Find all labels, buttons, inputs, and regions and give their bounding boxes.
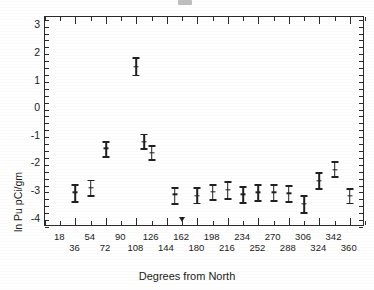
y-axis-tick bbox=[359, 82, 363, 83]
x-tick-label: 360 bbox=[341, 243, 357, 253]
x-axis-tick bbox=[213, 221, 214, 225]
x-tick-label: 234 bbox=[234, 232, 250, 242]
y-axis-tick bbox=[359, 47, 363, 48]
x-tick-label: 144 bbox=[158, 243, 174, 253]
y-tick-label: -2 bbox=[18, 157, 40, 168]
y-axis-tick bbox=[45, 89, 49, 90]
x-axis-tick bbox=[60, 221, 61, 225]
y-axis-tick bbox=[45, 116, 49, 117]
y-axis-tick bbox=[359, 40, 363, 41]
error-bar bbox=[288, 186, 290, 202]
y-axis-tick bbox=[359, 192, 363, 193]
y-axis-tick bbox=[45, 206, 49, 207]
error-bar-cap-lower bbox=[148, 159, 155, 161]
y-axis-tick bbox=[359, 172, 363, 173]
error-bar bbox=[174, 188, 176, 205]
data-point-marker bbox=[210, 191, 215, 192]
error-bar-cap-lower bbox=[209, 199, 216, 201]
error-bar-cap-upper bbox=[301, 195, 308, 197]
plot-area bbox=[45, 17, 363, 225]
x-axis-tick bbox=[75, 17, 76, 24]
censored-point-marker bbox=[179, 217, 185, 222]
y-axis-tick bbox=[45, 213, 49, 214]
x-axis-tick bbox=[75, 218, 76, 225]
error-bar-cap-lower bbox=[255, 200, 262, 202]
y-axis-tick bbox=[359, 96, 363, 97]
y-axis-tick bbox=[359, 116, 363, 117]
x-axis-tick bbox=[213, 17, 214, 21]
y-axis-tick bbox=[359, 75, 363, 76]
y-axis-tick bbox=[359, 20, 363, 21]
y-axis-tick bbox=[45, 61, 49, 62]
x-axis-tick bbox=[243, 221, 244, 225]
y-axis-tick bbox=[45, 158, 49, 159]
x-tick-label: 18 bbox=[54, 232, 65, 242]
error-bar bbox=[227, 182, 229, 199]
error-bar-cap-upper bbox=[270, 184, 277, 186]
x-tick-labels: 1854901261621982342703063423672108144180… bbox=[0, 232, 374, 262]
data-point-marker bbox=[103, 148, 108, 149]
y-tick-label: -3 bbox=[18, 185, 40, 196]
error-bar bbox=[212, 185, 214, 200]
x-tick-label: 90 bbox=[115, 232, 126, 242]
x-tick-label: 216 bbox=[219, 243, 235, 253]
y-axis-tick bbox=[359, 61, 363, 62]
data-point-marker bbox=[88, 187, 93, 188]
error-bar-cap-lower bbox=[301, 212, 308, 214]
x-tick-label: 306 bbox=[295, 232, 311, 242]
data-point-marker bbox=[286, 193, 291, 194]
y-axis-tick bbox=[359, 227, 363, 228]
x-axis-tick bbox=[106, 218, 107, 225]
y-axis-tick bbox=[45, 172, 49, 173]
x-axis-tick bbox=[258, 17, 259, 24]
y-axis-tick bbox=[359, 220, 363, 221]
y-axis-tick bbox=[359, 199, 363, 200]
error-bar-cap-lower bbox=[141, 148, 148, 150]
y-axis-tick bbox=[45, 144, 49, 145]
y-axis-tick bbox=[45, 54, 49, 55]
data-point-marker bbox=[172, 194, 177, 195]
x-axis-tick bbox=[152, 221, 153, 225]
data-point-marker bbox=[195, 195, 200, 196]
y-tick-label: 2 bbox=[18, 47, 40, 58]
x-axis-tick bbox=[121, 221, 122, 225]
x-axis-tick bbox=[350, 17, 351, 24]
y-axis-tick bbox=[45, 27, 49, 28]
y-axis-tick bbox=[45, 47, 49, 48]
x-axis-tick bbox=[365, 221, 366, 225]
error-bar-cap-lower bbox=[331, 176, 338, 178]
x-axis-tick bbox=[106, 17, 107, 24]
y-axis-tick bbox=[359, 103, 363, 104]
y-tick-label: 0 bbox=[18, 102, 40, 113]
x-tick-label: 108 bbox=[127, 243, 143, 253]
error-bar-cap-lower bbox=[72, 201, 79, 203]
error-bar-cap-lower bbox=[87, 195, 94, 197]
x-tick-label: 288 bbox=[280, 243, 296, 253]
y-axis-tick bbox=[359, 151, 363, 152]
data-point-marker bbox=[142, 141, 147, 142]
cropped-title-fragment bbox=[178, 0, 192, 5]
x-axis-tick bbox=[335, 17, 336, 21]
data-point-marker bbox=[225, 189, 230, 190]
x-axis-tick bbox=[304, 17, 305, 21]
y-axis-tick bbox=[359, 34, 363, 35]
y-axis-tick bbox=[45, 165, 49, 166]
x-axis-tick bbox=[152, 17, 153, 21]
error-bar-cap-lower bbox=[270, 200, 277, 202]
x-axis-tick bbox=[167, 218, 168, 225]
y-axis-tick bbox=[359, 27, 363, 28]
error-bar-cap-upper bbox=[285, 185, 292, 187]
y-axis-tick bbox=[45, 34, 49, 35]
y-axis-tick bbox=[359, 165, 363, 166]
data-point-marker bbox=[256, 192, 261, 193]
y-axis-tick bbox=[45, 110, 49, 111]
x-axis-tick bbox=[228, 218, 229, 225]
y-axis-tick bbox=[45, 96, 49, 97]
plot-frame bbox=[44, 16, 364, 226]
x-axis-tick bbox=[197, 218, 198, 225]
y-axis-tick bbox=[359, 130, 363, 131]
y-axis-tick bbox=[359, 213, 363, 214]
error-bar bbox=[105, 142, 107, 157]
error-bar-cap-upper bbox=[148, 145, 155, 147]
error-bar-cap-upper bbox=[209, 184, 216, 186]
